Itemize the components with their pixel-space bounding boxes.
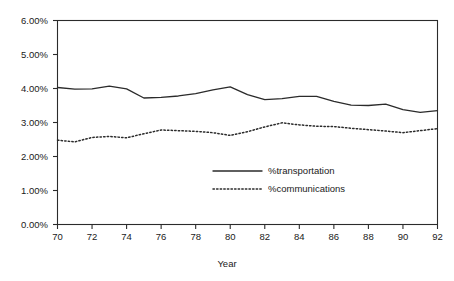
legend-item-label: %communications [268, 183, 345, 194]
x-tick-label: 70 [46, 232, 70, 242]
x-tick-label: 84 [287, 232, 311, 242]
y-tick-label: 6.00% [2, 16, 48, 26]
axis-ticks [53, 21, 438, 230]
x-tick-label: 86 [322, 232, 346, 242]
plot-frame [58, 21, 438, 225]
x-tick-label: 90 [391, 232, 415, 242]
x-tick-label: 72 [80, 232, 104, 242]
y-tick-label: 0.00% [2, 220, 48, 230]
chart-figure: 0.00%1.00%2.00%3.00%4.00%5.00%6.00% 7072… [0, 0, 454, 281]
x-tick-label: 74 [115, 232, 139, 242]
x-tick-label: 80 [218, 232, 242, 242]
x-tick-label: 92 [426, 232, 450, 242]
y-tick-label: 3.00% [2, 118, 48, 128]
x-axis-title: Year [0, 258, 454, 269]
y-tick-label: 5.00% [2, 50, 48, 60]
legend-item-label: %transportation [268, 165, 335, 176]
y-tick-label: 2.00% [2, 152, 48, 162]
data-series [58, 86, 438, 142]
x-tick-label: 88 [356, 232, 380, 242]
x-tick-label: 78 [184, 232, 208, 242]
legend-line-samples [213, 171, 262, 189]
y-tick-label: 4.00% [2, 84, 48, 94]
x-tick-label: 76 [149, 232, 173, 242]
y-tick-label: 1.00% [2, 186, 48, 196]
x-tick-label: 82 [253, 232, 277, 242]
